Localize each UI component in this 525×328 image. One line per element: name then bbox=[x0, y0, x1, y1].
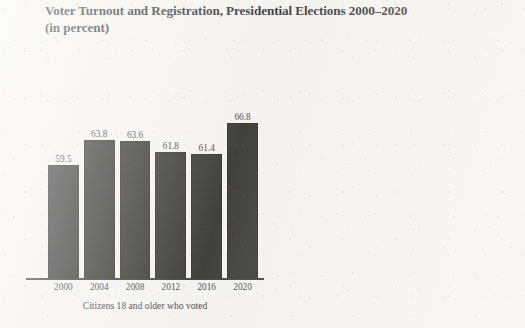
bar-group-voted: 59.5 63.8 63.6 61.8 61.4 66.8 bbox=[48, 46, 258, 278]
panel-caption-voted: Citizens 18 and older who voted bbox=[26, 300, 264, 312]
year-label: 2020 bbox=[227, 281, 258, 293]
year-label: 2000 bbox=[48, 281, 79, 293]
bar-voted-2000 bbox=[48, 165, 79, 278]
title-line-1: Voter Turnout and Registration, Presiden… bbox=[45, 3, 407, 18]
page-title: Voter Turnout and Registration, Presiden… bbox=[45, 3, 505, 36]
year-label: 2004 bbox=[84, 281, 115, 293]
bar-voted-2016 bbox=[191, 154, 222, 278]
bar-voted-2008 bbox=[120, 141, 151, 278]
year-label: 2012 bbox=[155, 281, 186, 293]
bar-slot: 63.6 bbox=[120, 46, 151, 278]
bar-slot: 66.8 bbox=[227, 46, 258, 278]
bar-voted-2020 bbox=[227, 123, 258, 278]
x-axis-labels-voted: 2000 2004 2008 2012 2016 2020 bbox=[48, 281, 258, 293]
bar-value-label: 63.8 bbox=[91, 129, 107, 139]
chart-panel-voted: 59.5 63.8 63.6 61.8 61.4 66.8 2000 2004 … bbox=[0, 0, 266, 328]
bar-value-label: 63.6 bbox=[127, 130, 143, 140]
chart-panel-registered: 69.5 72.1 71.0 71.2 70.3 72.7 2000 2004 … bbox=[266, 0, 525, 328]
year-label: 2008 bbox=[120, 281, 151, 293]
x-axis-line-voted bbox=[26, 278, 264, 280]
bar-voted-2004 bbox=[84, 140, 115, 278]
bar-slot: 61.4 bbox=[191, 46, 222, 278]
bar-value-label: 61.4 bbox=[199, 143, 215, 153]
bar-value-label: 66.8 bbox=[234, 112, 250, 122]
year-label: 2016 bbox=[191, 281, 222, 293]
bar-slot: 63.8 bbox=[84, 46, 115, 278]
title-line-2: (in percent) bbox=[45, 20, 505, 37]
bar-value-label: 59.5 bbox=[55, 154, 71, 164]
bar-slot: 61.8 bbox=[155, 46, 186, 278]
bar-value-label: 61.8 bbox=[163, 141, 179, 151]
bar-slot: 59.5 bbox=[48, 46, 79, 278]
bar-voted-2012 bbox=[155, 152, 186, 278]
